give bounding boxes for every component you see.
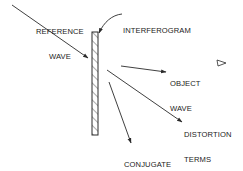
reference-wave-label-line2: WAVE: [36, 53, 84, 61]
reference-wave-label-line1: REFERENCE: [36, 28, 84, 36]
conjugate-wave-label-line1: CONJUGATE: [124, 161, 171, 169]
interferogram-leader-arrow: [99, 14, 122, 33]
interferogram-plate: [92, 32, 98, 135]
reference-wave-label: REFERENCE WAVE: [36, 12, 84, 69]
distortion-terms-label-line2: TERMS: [184, 156, 232, 164]
eye-observer-marker-icon: [217, 60, 226, 66]
conjugate-wave-arrow: [109, 82, 131, 143]
distortion-terms-label-line1: DISTORTION: [184, 131, 232, 139]
distortion-terms-label: DISTORTION TERMS: [184, 115, 232, 171]
object-wave-arrow: [121, 66, 166, 72]
object-wave-label: OBJECT WAVE: [170, 64, 201, 121]
interferogram-label-line1: INTERFEROGRAM: [123, 27, 191, 35]
object-wave-label-line2: WAVE: [170, 105, 201, 113]
interferogram-label: INTERFEROGRAM: [123, 11, 191, 44]
object-wave-label-line1: OBJECT: [170, 80, 201, 88]
conjugate-wave-label: CONJUGATE WAVE: [124, 145, 171, 171]
